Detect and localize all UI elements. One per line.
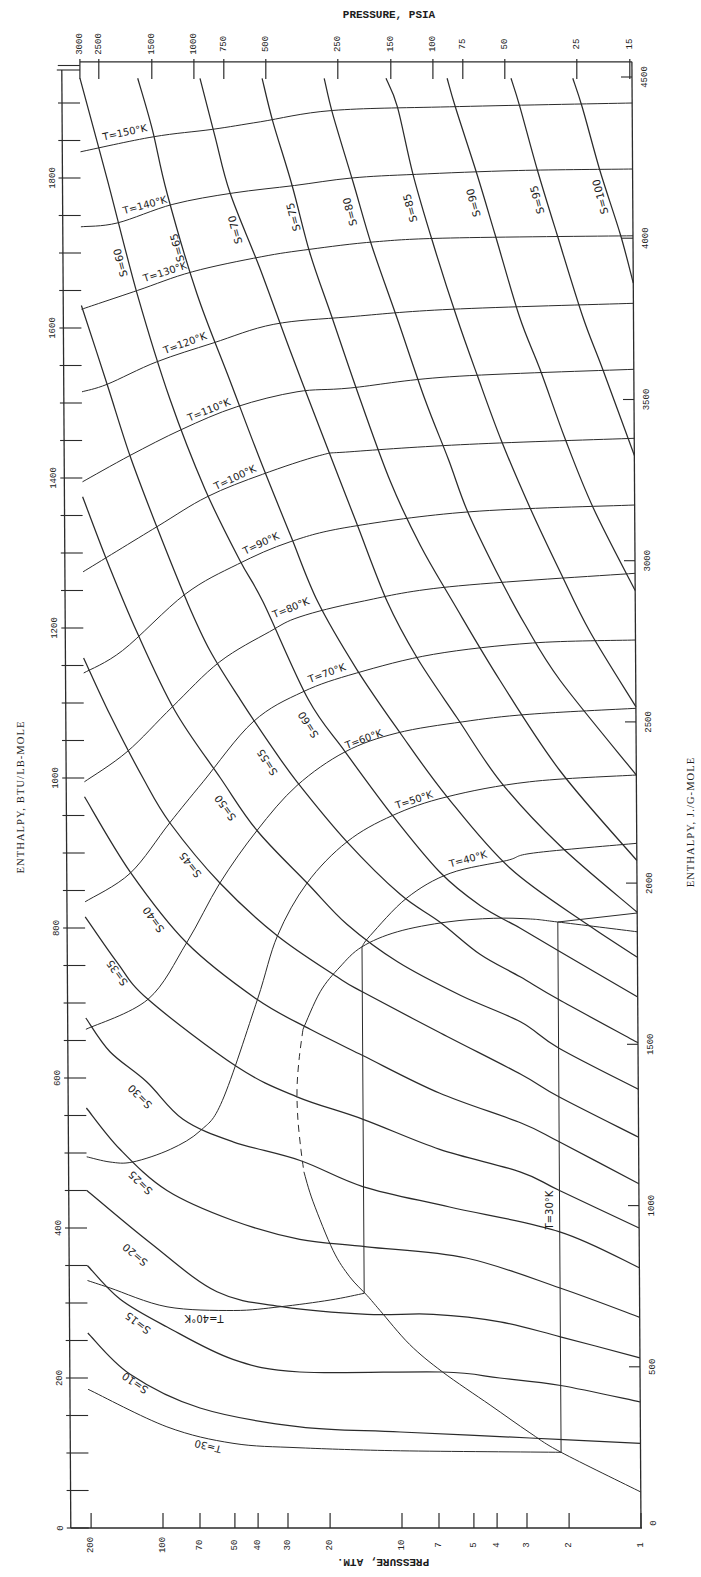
bottom-axis-tick-label: 200: [86, 1537, 96, 1553]
isentrope-label: S=50: [212, 793, 238, 823]
left-axis-tick-label: 200: [55, 1370, 65, 1386]
right-axis-tick-label: 0: [649, 1520, 659, 1525]
bottom-axis-tick-label: 50: [230, 1540, 240, 1551]
isentrope-curve: [447, 78, 635, 590]
isotherm-curve: [88, 1389, 561, 1452]
isentrope-curve: [85, 797, 639, 1184]
pressure-enthalpy-chart: 0200400600800100012001400160018000500100…: [0, 0, 701, 1577]
right-axis-tick-label: 4000: [641, 227, 651, 249]
bottom-axis-tick-label: 100: [158, 1537, 168, 1553]
bottom-axis-tick-label: 10: [397, 1540, 407, 1551]
isentrope-label: S=40: [140, 905, 166, 935]
isentrope-curve: [138, 78, 638, 957]
isentrope-label: S=100: [590, 178, 611, 215]
isotherm-curve: [85, 640, 635, 902]
isentrope-label: S=90: [464, 187, 483, 218]
bottom-axis-tick-label: 1: [636, 1542, 646, 1547]
isotherm-curve: [558, 922, 561, 1452]
isentrope-curve: [262, 78, 637, 860]
left-axis-title: ENTHALPY, BTU/LB-MOLE: [15, 721, 26, 874]
isotherm-curve: [83, 438, 634, 572]
isentrope-curve: [84, 658, 639, 1137]
top-axis-tick-label: 3000: [75, 33, 85, 55]
isentrope-curve: [386, 78, 636, 707]
isotherm-label: T=50°K: [393, 788, 435, 811]
left-axis-tick-label: 1800: [48, 167, 58, 189]
right-axis-tick-label: 3000: [643, 550, 653, 572]
isentrope-label: S=45: [176, 850, 203, 880]
top-axis-tick-label: 250: [333, 36, 343, 52]
isentrope-curve: [80, 78, 638, 997]
top-axis-tick-label: 500: [261, 36, 271, 52]
top-axis-tick-label: 150: [386, 36, 396, 52]
left-axis-tick-label: 1200: [50, 617, 60, 639]
top-axis-tick-label: 750: [219, 36, 229, 52]
top-axis-tick-label: 100: [428, 36, 438, 52]
isotherm-curve: [362, 843, 637, 947]
isotherm-label: T=80°K: [270, 595, 311, 620]
bottom-axis-tick-label: 2: [564, 1542, 574, 1547]
isentrope-curve: [511, 78, 634, 455]
left-axis-tick-label: 1000: [51, 767, 61, 789]
right-axis-title: ENTHALPY, J./G-MOLE: [685, 757, 696, 888]
isotherm-curve: [81, 103, 633, 152]
left-axis-tick-label: 400: [54, 1220, 64, 1236]
isotherm-label: T=70°K: [306, 661, 348, 685]
isentrope-label: S=80: [340, 196, 359, 227]
left-axis-tick-label: 0: [56, 1525, 66, 1530]
saturation-curve: [303, 918, 637, 1029]
left-axis-tick-label: 1600: [48, 317, 58, 339]
top-axis-tick-label: 15: [625, 39, 635, 50]
isentrope-curve: [88, 1333, 641, 1443]
bottom-axis-tick-label: 20: [325, 1540, 335, 1551]
isotherm-label: T=40°K: [447, 849, 489, 870]
isotherm-curve: [558, 913, 637, 922]
bottom-axis-tick-label: 30: [283, 1540, 293, 1551]
top-axis-tick-label: 2500: [94, 33, 104, 55]
bottom-axis-title: PRESSURE, ATM.: [337, 1556, 429, 1568]
bottom-axis-tick-label: 5: [469, 1542, 479, 1547]
isentrope-label: S=15: [123, 1310, 153, 1337]
bottom-axis-tick-label: 40: [253, 1540, 263, 1551]
isentrope-label: S=70: [225, 214, 244, 245]
isotherm-curve: [87, 775, 637, 1163]
isotherm-label: T=100°K: [211, 463, 258, 493]
left-axis-tick-label: 800: [52, 920, 62, 936]
isentrope-curve: [83, 497, 639, 1090]
saturation-curve: [297, 1029, 304, 1172]
right-axis-tick-label: 3500: [642, 389, 652, 411]
bottom-axis-tick-label: 70: [195, 1540, 205, 1551]
isentrope-label: S=20: [120, 1241, 150, 1269]
right-axis-tick-label: 4500: [640, 66, 650, 88]
isentrope-curve: [200, 78, 637, 912]
right-axis-tick-label: 1000: [647, 1195, 657, 1217]
curve-labels: T=150°KT=140°KT=130°KT=120°KT=110°KT=100…: [101, 122, 611, 1455]
right-axis-tick-label: 1500: [646, 1033, 656, 1055]
saturation-curve: [304, 1172, 641, 1492]
isotherm-label: T=40°K: [184, 1313, 224, 1324]
top-axis-tick-label: 1500: [147, 33, 157, 55]
isentrope-label: S=65: [167, 232, 186, 263]
top-axis-tick-label: 1000: [189, 33, 199, 55]
isotherm-curve: [84, 573, 635, 782]
chart-curves: [80, 78, 641, 1492]
left-axis-line: [62, 70, 71, 1528]
top-axis-title: PRESSURE, PSIA: [343, 9, 435, 21]
bottom-axis-tick-label: 4: [492, 1542, 502, 1547]
top-axis-tick-label: 50: [500, 39, 510, 50]
bottom-axis-tick-label: 7: [434, 1542, 444, 1547]
isentrope-label: S=30: [125, 1082, 154, 1111]
isotherm-label: T=30: [193, 1438, 223, 1456]
right-axis-tick-label: 2000: [645, 872, 655, 894]
isotherm-label: T=110°K: [185, 396, 232, 424]
left-axis-tick-label: 1400: [49, 467, 59, 489]
right-axis-tick-label: 2500: [644, 711, 654, 733]
top-axis-tick-label: 25: [572, 39, 582, 50]
left-axis-tick-label: 600: [53, 1070, 63, 1086]
isentrope-label: S=60: [111, 247, 130, 278]
top-axis-tick-label: 75: [458, 39, 468, 50]
isotherm-label: T=30°K: [544, 1190, 555, 1230]
isotherm-curve: [86, 708, 636, 1029]
isotherm-label: T=60°K: [343, 727, 385, 751]
bottom-axis-tick-label: 3: [522, 1542, 532, 1547]
